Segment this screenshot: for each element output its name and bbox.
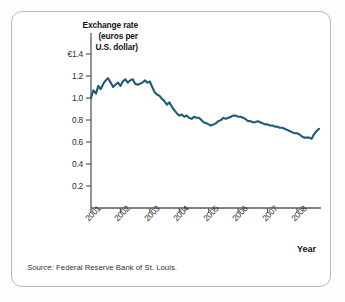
source-label: Source:: [27, 263, 54, 272]
axis-ticks: [86, 54, 297, 213]
y-tick-label: 1.2: [49, 71, 83, 81]
y-tick-label: 0.6: [49, 137, 83, 147]
figure-panel: Exchange rate (euros per U.S. dollar) 0.…: [11, 11, 331, 287]
y-tick-label: 0.8: [49, 115, 83, 125]
y-tick-label: 0.4: [49, 159, 83, 169]
data-line-euros-per-dollar: [91, 78, 319, 139]
y-tick-label: 1.0: [49, 93, 83, 103]
y-tick-label: €1.4: [49, 49, 83, 59]
y-tick-label: 0.2: [49, 181, 83, 191]
source-value: Federal Reserve Bank of St. Louis.: [56, 263, 177, 272]
source-note: Source: Federal Reserve Bank of St. Loui…: [27, 263, 177, 272]
axes: [91, 33, 321, 208]
x-axis-title: Year: [297, 244, 316, 254]
